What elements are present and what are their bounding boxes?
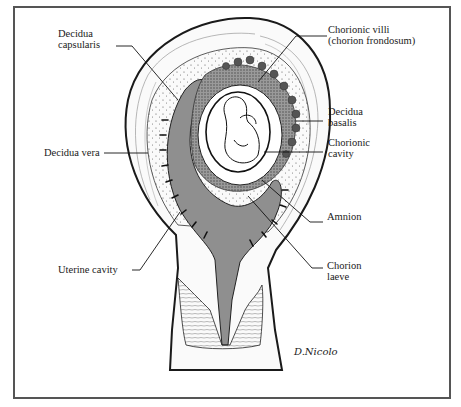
artist-signature: D.Nicolo <box>294 346 338 357</box>
label-line-2: cavity <box>328 148 370 159</box>
label-uterine-cavity: Uterine cavity <box>58 264 118 275</box>
label-decidua-basalis: Decidua basalis <box>328 106 363 128</box>
label-line-2: capsularis <box>58 39 100 50</box>
label-line-1: Chorionic <box>328 137 370 148</box>
label-line-1: Chorion <box>327 260 361 271</box>
label-line-1: Decidua <box>328 106 363 117</box>
label-line-2: laeve <box>327 271 361 282</box>
label-amnion: Amnion <box>327 211 361 222</box>
label-chorion-laeve: Chorion laeve <box>327 260 361 282</box>
label-decidua-vera: Decidua vera <box>44 147 100 158</box>
label-line-1: Decidua <box>58 28 100 39</box>
label-line-2: (chorion frondosum) <box>328 35 415 46</box>
label-chorionic-cavity: Chorionic cavity <box>328 137 370 159</box>
label-line-2: basalis <box>328 117 363 128</box>
label-line-1: Chorionic villi <box>328 24 415 35</box>
label-decidua-capsularis: Decidua capsularis <box>58 28 100 50</box>
uterus-diagram <box>0 0 461 407</box>
label-chorionic-villi: Chorionic villi (chorion frondosum) <box>328 24 415 46</box>
